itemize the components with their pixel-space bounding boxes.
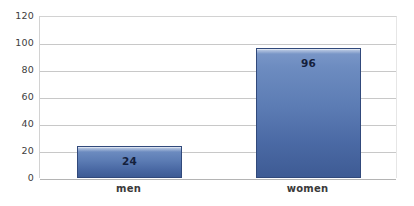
axis-baseline — [40, 179, 396, 180]
bar-men[interactable]: 24 — [77, 146, 182, 178]
y-axis-tick-label: 100 — [2, 38, 34, 48]
y-axis-tick-label: 80 — [2, 65, 34, 75]
bar-highlight — [78, 147, 181, 152]
bar-chart: 020406080100120 2496 menwomen — [0, 0, 414, 206]
bar-value-label: 96 — [257, 58, 360, 69]
bar-women[interactable]: 96 — [256, 48, 361, 178]
y-axis-tick-label: 120 — [2, 11, 34, 21]
bar-value-label: 24 — [78, 156, 181, 167]
y-axis-tick-label: 60 — [2, 92, 34, 102]
gridline — [40, 44, 396, 45]
category-label-men: men — [39, 184, 218, 194]
y-axis-tick-label: 0 — [2, 173, 34, 183]
y-axis-tick-labels: 020406080100120 — [0, 16, 34, 178]
y-axis-tick-label: 20 — [2, 146, 34, 156]
plot-area: 2496 — [39, 16, 397, 178]
y-axis-tick-label: 40 — [2, 119, 34, 129]
category-label-women: women — [218, 184, 397, 194]
bar-highlight — [257, 49, 360, 54]
